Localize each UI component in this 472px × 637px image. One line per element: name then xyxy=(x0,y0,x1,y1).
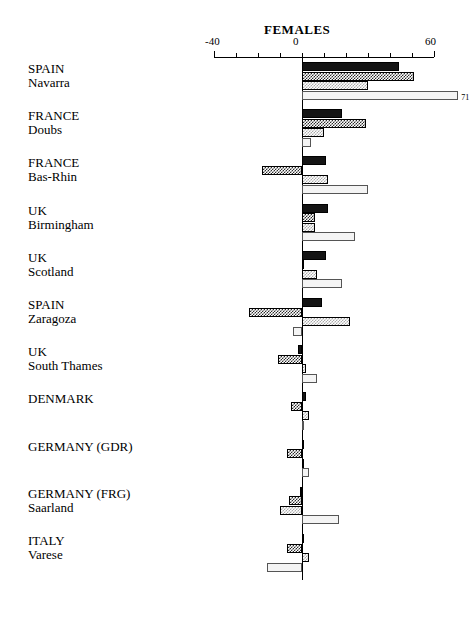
bar-9-0 xyxy=(300,487,302,496)
row-label-line2: Scotland xyxy=(28,265,74,279)
bar-3-2 xyxy=(302,223,315,232)
row-label-line2: Doubs xyxy=(28,123,79,137)
row-label-line2: Bas-Rhin xyxy=(28,170,79,184)
axis-tick xyxy=(346,53,347,57)
row-label-2: FRANCEBas-Rhin xyxy=(28,156,79,184)
bar-3-3 xyxy=(302,232,355,241)
bar-1-0 xyxy=(302,109,342,118)
axis-tick xyxy=(324,53,325,57)
row-label-line2: Varese xyxy=(28,548,65,562)
bar-8-0 xyxy=(302,440,304,449)
bar-4-0 xyxy=(302,251,326,260)
axis-tick-label: -40 xyxy=(205,35,220,47)
row-label-line1: UK xyxy=(28,203,47,218)
bar-1-3 xyxy=(302,138,311,147)
row-label-0: SPAINNavarra xyxy=(28,62,70,90)
row-label-line1: SPAIN xyxy=(28,297,64,312)
bar-7-3 xyxy=(302,421,304,430)
bar-7-2 xyxy=(302,411,309,420)
bar-5-1 xyxy=(249,308,302,317)
bar-2-2 xyxy=(302,175,328,184)
bar-1-1 xyxy=(302,119,366,128)
bar-3-0 xyxy=(302,204,328,213)
row-label-line1: DENMARK xyxy=(28,391,94,406)
row-label-10: ITALYVarese xyxy=(28,534,65,562)
bar-0-3 xyxy=(302,91,458,100)
bar-2-1 xyxy=(262,166,302,175)
bar-2-0 xyxy=(302,156,326,165)
axis-tick xyxy=(280,53,281,57)
bar-5-0 xyxy=(302,298,322,307)
bar-8-3 xyxy=(302,468,309,477)
row-label-line1: SPAIN xyxy=(28,61,64,76)
bar-6-3 xyxy=(302,374,317,383)
row-label-line2: Navarra xyxy=(28,76,70,90)
row-label-line1: UK xyxy=(28,344,47,359)
axis-tick xyxy=(412,53,413,57)
bar-4-3 xyxy=(302,279,342,288)
bar-10-2 xyxy=(302,553,309,562)
bar-9-1 xyxy=(289,496,302,505)
bar-10-0 xyxy=(302,534,304,543)
axis-tick-label: 0 xyxy=(293,35,299,47)
row-label-line1: ITALY xyxy=(28,533,65,548)
bar-4-1 xyxy=(302,260,304,269)
chart-canvas: FEMALES-40060SPAINNavarra71FRANCEDoubsFR… xyxy=(0,0,472,637)
row-label-4: UKScotland xyxy=(28,251,74,279)
bar-3-1 xyxy=(302,213,315,222)
bar-9-2 xyxy=(280,506,302,515)
bar-8-1 xyxy=(287,449,302,458)
row-label-8: GERMANY (GDR) xyxy=(28,440,133,454)
row-label-line1: GERMANY (FRG) xyxy=(28,486,130,501)
bar-0-1 xyxy=(302,72,414,81)
row-label-3: UKBirmingham xyxy=(28,204,94,232)
axis-tick xyxy=(390,53,391,57)
row-label-line2: Zaragoza xyxy=(28,312,76,326)
row-label-line2: Birmingham xyxy=(28,218,94,232)
axis-tick xyxy=(258,53,259,57)
row-label-line1: UK xyxy=(28,250,47,265)
bar-1-2 xyxy=(302,128,324,137)
axis-tick-label: 60 xyxy=(425,35,436,47)
bar-8-2 xyxy=(302,459,304,468)
row-label-9: GERMANY (FRG)Saarland xyxy=(28,487,130,515)
x-axis-line xyxy=(214,57,434,58)
bar-6-0 xyxy=(298,345,302,354)
row-label-line1: FRANCE xyxy=(28,155,79,170)
axis-tick xyxy=(368,53,369,57)
row-label-1: FRANCEDoubs xyxy=(28,109,79,137)
row-label-line1: FRANCE xyxy=(28,108,79,123)
bar-10-3 xyxy=(267,563,302,572)
bar-7-1 xyxy=(291,402,302,411)
bar-2-3 xyxy=(302,185,368,194)
row-label-line1: GERMANY (GDR) xyxy=(28,439,133,454)
bar-6-2 xyxy=(302,364,306,373)
row-label-line2: Saarland xyxy=(28,501,130,515)
bar-4-2 xyxy=(302,270,317,279)
bar-7-0 xyxy=(302,392,306,401)
row-label-5: SPAINZaragoza xyxy=(28,298,76,326)
bar-5-2 xyxy=(302,317,350,326)
row-label-7: DENMARK xyxy=(28,392,94,406)
axis-tick xyxy=(236,53,237,57)
bar-9-3 xyxy=(302,515,339,524)
bar-6-1 xyxy=(278,355,302,364)
bar-0-0 xyxy=(302,62,399,71)
row-label-6: UKSouth Thames xyxy=(28,345,103,373)
bar-value-label: 71 xyxy=(461,93,469,102)
row-label-line2: South Thames xyxy=(28,359,103,373)
bar-0-2 xyxy=(302,81,368,90)
axis-tick xyxy=(214,51,215,57)
bar-5-3 xyxy=(293,327,302,336)
bar-10-1 xyxy=(287,544,302,553)
axis-tick xyxy=(434,51,435,57)
